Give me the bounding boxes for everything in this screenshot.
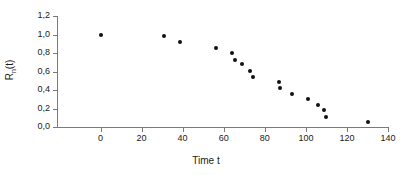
x-axis-tick-label: 80 (250, 133, 280, 144)
y-axis-title-base: R (4, 73, 15, 80)
x-axis-title: Time t (0, 155, 412, 167)
y-axis-tick-label: 1,0 (17, 29, 50, 40)
y-axis-tick-label: 0,0 (17, 121, 50, 132)
x-axis-tick (306, 128, 307, 132)
x-axis-tick-label: 100 (291, 133, 321, 144)
y-axis-tick-label: 1,2 (17, 10, 50, 21)
data-point (366, 120, 370, 124)
x-axis-tick-label: 40 (168, 133, 198, 144)
data-point (251, 75, 255, 79)
y-axis-tick-label: 0,4 (17, 84, 50, 95)
data-point (214, 46, 218, 50)
data-point (233, 58, 237, 62)
data-point (248, 69, 252, 73)
y-axis-title-subscript: n (10, 69, 17, 73)
x-axis-tick-label: 120 (332, 133, 362, 144)
x-axis-tick-label: 20 (127, 133, 157, 144)
x-axis-tick-label: 140 (373, 133, 403, 144)
data-point (322, 108, 326, 112)
x-axis-tick (142, 128, 143, 132)
data-point (277, 80, 281, 84)
x-axis-tick-label: 0 (86, 133, 116, 144)
y-axis-title: Rn(t) (4, 30, 20, 110)
data-point (230, 51, 234, 55)
x-axis-tick (224, 128, 225, 132)
data-point (178, 40, 182, 44)
y-axis-tick-label: 0,8 (17, 47, 50, 58)
data-point (316, 103, 320, 107)
y-axis-tick-label: 0,2 (17, 103, 50, 114)
x-axis-tick (265, 128, 266, 132)
x-axis-tick (101, 128, 102, 132)
x-axis-tick-label: 60 (209, 133, 239, 144)
data-point (278, 86, 282, 90)
x-axis-tick (183, 128, 184, 132)
data-point (99, 33, 103, 37)
data-point (290, 92, 294, 96)
data-point (240, 62, 244, 66)
data-point (162, 34, 166, 38)
data-point (324, 115, 328, 119)
y-axis-tick (53, 127, 57, 128)
plot-area (57, 16, 388, 127)
data-point (306, 97, 310, 101)
scatter-chart-figure: 0,00,20,40,60,81,01,2 020406080100120140… (0, 0, 412, 175)
y-axis-tick-label: 0,6 (17, 66, 50, 77)
x-axis-tick (347, 128, 348, 132)
y-axis-title-suffix: (t) (4, 60, 15, 69)
x-axis-tick (388, 128, 389, 132)
